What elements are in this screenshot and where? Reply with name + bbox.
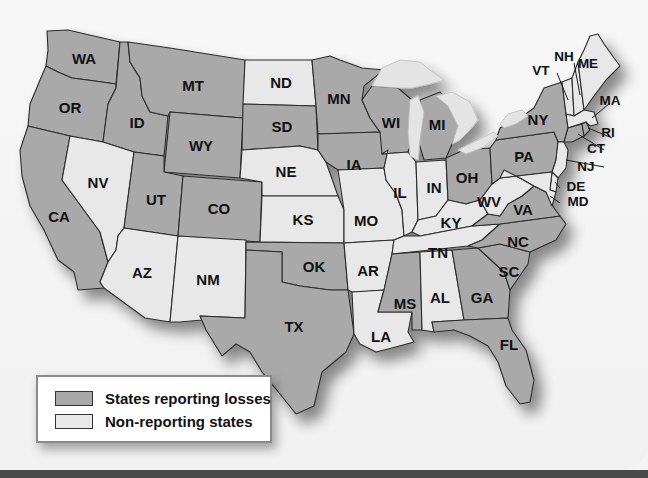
label-OK: OK <box>303 258 326 275</box>
label-NH: NH <box>554 49 574 64</box>
label-NJ: NJ <box>577 159 594 174</box>
label-LA: LA <box>371 328 391 345</box>
legend-label-non-reporting: Non-reporting states <box>105 413 253 430</box>
legend-label-reporting: States reporting losses <box>105 390 271 407</box>
label-NE: NE <box>276 163 297 180</box>
label-KS: KS <box>293 211 314 228</box>
legend-item-reporting: States reporting losses <box>55 390 271 407</box>
label-NV: NV <box>88 174 109 191</box>
legend-swatch-non-reporting <box>55 414 93 429</box>
label-IL: IL <box>393 184 406 201</box>
label-MA: MA <box>600 93 621 108</box>
label-ME: ME <box>578 56 598 71</box>
label-MT: MT <box>182 77 204 94</box>
label-TX: TX <box>284 318 303 335</box>
legend-item-non-reporting: Non-reporting states <box>55 413 253 430</box>
label-VA: VA <box>513 201 533 218</box>
label-IN: IN <box>427 179 442 196</box>
label-NC: NC <box>507 233 529 250</box>
label-AZ: AZ <box>132 264 152 281</box>
label-IA: IA <box>347 156 362 173</box>
label-SD: SD <box>272 118 293 135</box>
label-DE: DE <box>567 179 586 194</box>
bottom-border-band <box>0 470 648 478</box>
label-CA: CA <box>48 208 70 225</box>
label-VT: VT <box>532 63 550 78</box>
label-MI: MI <box>429 116 446 133</box>
label-RI: RI <box>601 125 615 140</box>
label-AL: AL <box>430 289 450 306</box>
legend-swatch-reporting <box>55 391 93 406</box>
label-PA: PA <box>514 148 534 165</box>
lake-superior <box>372 60 444 88</box>
state-FL[interactable] <box>432 318 534 404</box>
label-OH: OH <box>456 169 479 186</box>
label-MN: MN <box>327 90 350 107</box>
states-group <box>20 30 620 414</box>
label-WY: WY <box>189 137 213 154</box>
label-CO: CO <box>208 200 231 217</box>
label-MO: MO <box>354 212 378 229</box>
label-ND: ND <box>270 74 292 91</box>
label-UT: UT <box>146 191 166 208</box>
label-TN: TN <box>428 244 448 261</box>
label-SC: SC <box>499 263 520 280</box>
label-NY: NY <box>528 111 549 128</box>
label-KY: KY <box>441 214 462 231</box>
label-WV: WV <box>477 193 501 210</box>
label-ID: ID <box>130 114 145 131</box>
label-WA: WA <box>72 50 96 67</box>
label-GA: GA <box>471 289 494 306</box>
label-OR: OR <box>59 99 82 116</box>
label-MS: MS <box>394 295 417 312</box>
label-MD: MD <box>568 194 589 209</box>
label-AR: AR <box>357 262 379 279</box>
label-FL: FL <box>500 336 518 353</box>
map-legend: States reporting losses Non-reporting st… <box>36 375 272 443</box>
label-WI: WI <box>382 114 400 131</box>
label-NM: NM <box>196 271 219 288</box>
label-CT: CT <box>587 141 606 156</box>
